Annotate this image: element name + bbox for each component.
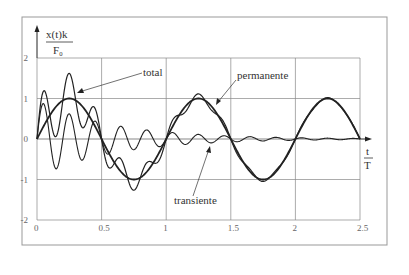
x-tick-label: 0 [34,223,39,233]
series-transiente [37,104,360,169]
annotation-total-arrow [79,73,142,92]
annotation-permanente: permanente [237,69,288,81]
annotation-transiente-arrow [193,149,209,196]
y-tick-label: 0 [24,134,29,144]
x-tick-label: 2.5 [357,223,369,233]
x-tick-label: 0.5 [99,223,111,233]
x-tick-label: 1 [163,223,168,233]
y-axis-label-denominator: F₀ [53,44,63,56]
annotation-total: total [143,66,163,78]
x-tick-label: 1.5 [228,223,240,233]
arrowhead-icon [77,88,84,93]
series-total [37,73,360,190]
y-tick-label: -1 [21,175,29,185]
y-tick-label: 2 [24,53,29,63]
x-tick-label: 2 [292,223,297,233]
plot-area: 00.511.522.5210-1-2 [21,53,369,233]
x-axis-arrow-icon [365,137,372,142]
y-axis-arrow-icon [35,25,40,32]
y-axis-label-numerator: x(t)k [46,28,68,41]
y-tick-label: 1 [24,94,29,104]
y-tick-label: -2 [21,215,29,225]
arrowhead-icon [206,146,211,153]
annotation-transiente: transiente [174,194,217,206]
x-axis-label-denominator: T [364,159,371,171]
chart-figure: 00.511.522.5210-1-2 x(t)k F₀ t T total p… [0,0,409,275]
outer-frame [22,17,387,245]
x-axis-label-numerator: t [366,145,369,157]
